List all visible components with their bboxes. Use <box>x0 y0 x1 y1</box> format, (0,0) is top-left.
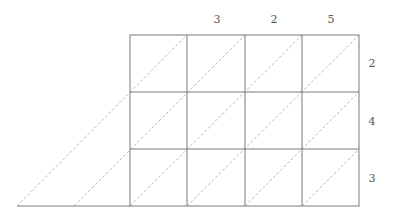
right-digit-3: 3 <box>369 172 376 185</box>
right-digit-1: 2 <box>369 57 376 70</box>
lattice-grid <box>130 35 359 206</box>
top-digit-2: 2 <box>271 13 278 26</box>
right-digit-2: 4 <box>369 115 376 128</box>
lattice-diagram: 3 2 5 2 4 3 <box>0 0 399 213</box>
top-digit-1: 3 <box>214 13 221 26</box>
top-digit-3: 5 <box>328 13 335 26</box>
diagonal-lines <box>17 35 359 206</box>
